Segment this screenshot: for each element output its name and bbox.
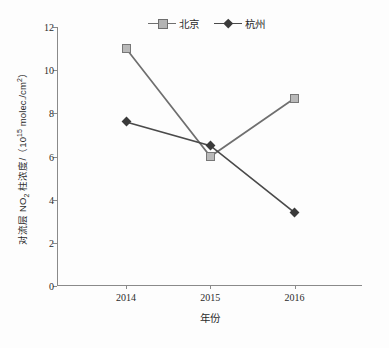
data-point-beijing-2016 bbox=[290, 94, 299, 103]
series-line-hangzhou bbox=[126, 122, 295, 213]
y-axis-title-text: 对流层 NO2 柱浓度/（1015 molec./cm2） bbox=[15, 68, 29, 245]
x-axis-title: 年份 bbox=[57, 310, 362, 325]
data-point-beijing-2015 bbox=[206, 152, 215, 161]
series-lines bbox=[0, 0, 389, 348]
chart-figure: 北京 杭州 024681012 201420152016 对流层 NO2 柱浓度… bbox=[0, 0, 389, 348]
data-point-beijing-2014 bbox=[122, 44, 131, 53]
y-axis-title: 对流层 NO2 柱浓度/（1015 molec./cm2） bbox=[14, 27, 30, 286]
